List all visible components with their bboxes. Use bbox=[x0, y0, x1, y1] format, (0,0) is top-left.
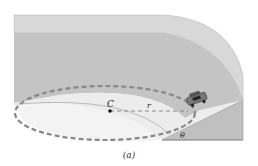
angle-label: θ bbox=[180, 131, 185, 140]
banked-curve-diagram: C r θ bbox=[0, 0, 258, 166]
center-point bbox=[108, 109, 112, 113]
figure-caption: (a) bbox=[0, 150, 258, 160]
center-label: C bbox=[107, 99, 114, 109]
